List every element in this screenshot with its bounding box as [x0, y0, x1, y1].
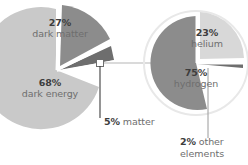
composition-infographic: 27% dark matter 68% dark energy 5% matte… — [0, 0, 248, 165]
label-other-elements: 2% other elements — [180, 131, 242, 160]
label-other-name-line2: elements — [180, 149, 242, 160]
label-matter: 5% matter — [104, 111, 155, 129]
label-matter-name-text: matter — [123, 116, 155, 127]
label-other-name: other — [199, 136, 224, 147]
label-dark-energy-name: dark energy — [8, 89, 92, 100]
label-helium: 23% helium — [178, 28, 236, 49]
label-helium-name: helium — [178, 39, 236, 50]
label-dark-energy: 68% dark energy — [8, 78, 92, 99]
callout-marker-square — [97, 60, 104, 67]
label-dark-matter-name: dark matter — [18, 29, 102, 40]
label-matter-percent: 5% — [104, 116, 120, 127]
label-dark-matter: 27% dark matter — [18, 18, 102, 39]
label-hydrogen-name: hydrogen — [162, 79, 230, 90]
label-other-percent: 2% — [180, 136, 196, 147]
label-hydrogen: 75% hydrogen — [162, 68, 230, 89]
